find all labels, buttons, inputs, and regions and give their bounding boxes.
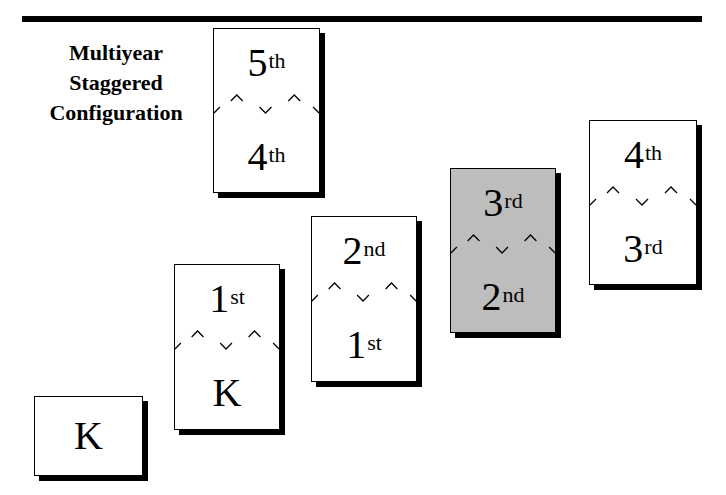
combination-zigzag-icon xyxy=(310,279,418,309)
lower-grade-label: 2nd xyxy=(451,275,555,319)
lower-grade-label: K xyxy=(175,371,279,415)
grade-box-3rd-2nd-highlighted: 3rd 2nd xyxy=(450,168,556,333)
grade-label: K xyxy=(35,414,142,458)
upper-grade-label: 3rd xyxy=(451,181,555,225)
diagram-title: Multiyear Staggered Configuration xyxy=(30,38,202,128)
title-line: Staggered xyxy=(30,68,202,98)
grade-box-5th-4th: 5th 4th xyxy=(213,28,320,193)
grade-box-2nd-1st: 2nd 1st xyxy=(311,216,417,382)
upper-grade-label: 5th xyxy=(214,41,319,85)
combination-zigzag-icon xyxy=(588,183,698,213)
lower-grade-label: 4th xyxy=(214,135,319,179)
title-line: Configuration xyxy=(30,98,202,128)
upper-grade-label: 1st xyxy=(175,277,279,321)
lower-grade-label: 1st xyxy=(312,323,416,367)
grade-box-1st-k: 1st K xyxy=(174,264,280,430)
combination-zigzag-icon xyxy=(212,91,321,121)
upper-grade-label: 4th xyxy=(590,133,696,177)
upper-grade-label: 2nd xyxy=(312,229,416,273)
grade-box-k: K xyxy=(34,396,143,476)
combination-zigzag-icon xyxy=(449,231,557,261)
grade-box-4th-3rd: 4th 3rd xyxy=(589,120,697,285)
top-rule xyxy=(22,16,702,22)
combination-zigzag-icon xyxy=(173,327,281,357)
title-line: Multiyear xyxy=(30,38,202,68)
lower-grade-label: 3rd xyxy=(590,227,696,271)
